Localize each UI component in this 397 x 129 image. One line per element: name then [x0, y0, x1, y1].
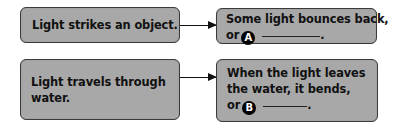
cause-box-1: Light strikes an object. — [20, 7, 180, 43]
effect-box-1: Some light bounces back, orA. — [216, 8, 377, 44]
period: . — [320, 28, 324, 42]
answer-blank-a[interactable] — [262, 36, 320, 37]
effect-text-2-line-2: the water, it bends, — [227, 81, 377, 97]
period: . — [307, 98, 311, 112]
effect-box-2: When the light leaves the water, it bend… — [216, 59, 378, 122]
effect-text-1-line-1: Some light bounces back, — [226, 11, 376, 27]
effect-text-2-line-1: When the light leaves — [227, 65, 377, 81]
arrow-2 — [180, 77, 216, 78]
effect-text-1-blank-line: orA. — [226, 27, 376, 45]
or-label: or — [227, 98, 240, 112]
cause-text-1: Light strikes an object. — [32, 17, 178, 33]
badge-a-icon: A — [241, 31, 255, 45]
cause-box-2: Light travels through water. — [20, 59, 180, 120]
badge-b-icon: B — [242, 101, 256, 115]
cause-text-2: Light travels through water. — [31, 74, 179, 106]
or-label: or — [226, 28, 239, 42]
arrow-1 — [180, 25, 216, 26]
answer-blank-b[interactable] — [263, 106, 307, 107]
effect-text-2-blank-line: orB. — [227, 97, 377, 115]
